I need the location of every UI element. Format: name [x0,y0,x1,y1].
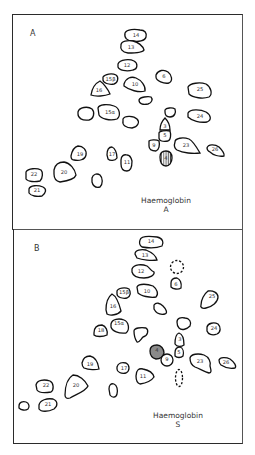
spot-b-unlabeled-5 [19,402,29,410]
spot-a-20: 20 [54,162,76,182]
spot-a-22: 22 [26,169,42,182]
svg-text:15α: 15α [105,109,116,115]
spot-a-unlabeled-1 [139,97,152,105]
panel-a-caption-line2: A [163,205,169,214]
svg-text:26: 26 [212,146,219,152]
svg-text:24: 24 [211,325,218,331]
svg-text:21: 21 [45,401,52,407]
spot-a-6: 6 [156,70,172,83]
panel-a-caption-line1: Haemoglobin [141,196,191,205]
spot-a-15b: 15β [103,74,118,84]
svg-text:15β: 15β [106,76,116,83]
spot-b-unlabeled-2 [177,318,191,330]
spot-b-6: 6 [171,278,181,289]
svg-text:10: 10 [144,288,151,294]
spot-b-18: 18 [94,325,107,337]
spot-b-dashed-top [171,261,184,274]
svg-text:24: 24 [197,113,204,119]
spot-b-26: 26 [219,358,236,369]
spot-b-21: 21 [39,399,57,412]
svg-text:6: 6 [162,73,165,79]
spot-a-13: 13 [121,41,144,53]
spot-b-5: 5 [175,347,183,358]
spot-b-11: 11 [136,369,154,384]
spot-a-15a: 15α [98,105,119,120]
panel-a: A 14 13 12 15β 16 10 6 25 15α 24 3 5 9 2… [26,29,224,214]
spot-b-15b: 15β [117,288,130,298]
spot-a-19: 19 [71,146,86,160]
svg-text:26: 26 [223,359,230,365]
spot-a-26: 26 [207,145,224,156]
spot-a-25: 25 [188,83,211,98]
svg-text:12: 12 [124,62,131,68]
svg-text:23: 23 [183,142,190,148]
svg-text:21: 21 [34,187,41,193]
svg-text:3: 3 [178,336,181,342]
svg-text:5: 5 [177,349,180,355]
spot-a-21: 21 [29,186,46,197]
spot-a-17: 17 [107,147,117,160]
svg-text:17: 17 [109,151,116,157]
svg-text:18: 18 [98,327,105,333]
spot-b-23: 23 [190,354,211,373]
peptide-maps: A 14 13 12 15β 16 10 6 25 15α 24 3 5 9 2… [0,0,255,455]
svg-text:22: 22 [43,382,50,388]
svg-text:19: 19 [77,151,84,157]
svg-text:22: 22 [31,171,38,177]
svg-text:3: 3 [163,123,166,129]
spot-b-24: 24 [207,323,220,335]
svg-text:13: 13 [128,44,135,50]
svg-text:10: 10 [132,81,139,87]
spot-a-4: 4 [160,151,172,166]
spot-a-3: 3 [160,118,170,130]
spot-a-unlabeled-4 [92,174,102,187]
svg-text:15β: 15β [119,289,129,296]
svg-text:25: 25 [197,86,204,92]
spot-a-24: 24 [188,110,210,122]
spot-b-15a: 15α [111,319,128,333]
svg-text:14: 14 [133,32,140,38]
spot-b-dashed-bottom [176,370,183,387]
svg-text:13: 13 [142,252,149,258]
svg-text:25: 25 [209,293,216,299]
panel-b: B 14 13 12 6 15β 10 25 16 18 15α 24 3 4 … [19,236,236,429]
spot-a-10: 10 [124,77,145,91]
spot-b-17: 17 [117,363,129,374]
spot-a-5: 5 [159,131,171,142]
svg-text:11: 11 [124,159,131,165]
svg-text:16: 16 [110,303,117,309]
spot-b-20: 20 [65,375,88,398]
svg-text:11: 11 [140,373,147,379]
spot-b-14: 14 [139,236,163,247]
svg-text:20: 20 [73,382,80,388]
spot-b-19: 19 [82,356,99,370]
spot-b-10: 10 [137,284,157,297]
panel-b-caption-line2: S [176,420,181,429]
svg-text:5: 5 [163,132,166,138]
svg-text:14: 14 [148,238,155,244]
spot-b-unlabeled-4 [109,384,117,397]
svg-text:20: 20 [61,169,68,175]
spot-b-12: 12 [132,265,154,278]
spot-a-unlabeled-3 [165,108,175,117]
spot-a-unlabeled-2 [123,116,139,128]
spot-a-18 [78,107,94,120]
spot-b-3: 3 [175,333,184,346]
panel-b-caption-line1: Haemoglobin [153,411,203,420]
panel-a-label: A [30,29,36,38]
spot-b-9: 9 [161,354,173,366]
spot-a-12: 12 [118,60,137,71]
spot-b-unlabeled-3 [134,328,148,343]
spot-b-22: 22 [36,380,53,393]
svg-text:16: 16 [96,87,103,93]
spot-a-23: 23 [174,138,200,153]
svg-text:19: 19 [87,361,94,367]
svg-text:23: 23 [197,358,204,364]
svg-text:17: 17 [121,365,128,371]
spot-b-25: 25 [201,291,218,308]
spot-a-9: 9 [149,140,159,151]
spot-a-11: 11 [121,155,132,171]
panel-b-label: B [34,244,40,253]
spot-b-13: 13 [135,250,157,261]
spot-a-14: 14 [125,29,146,41]
